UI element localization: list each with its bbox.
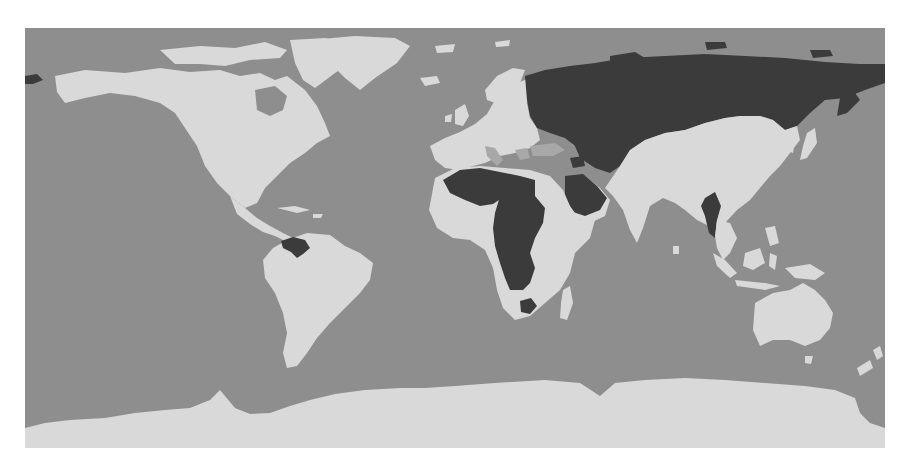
world-map-svg — [25, 28, 885, 448]
world-map — [25, 28, 885, 448]
sri-lanka — [673, 246, 679, 254]
